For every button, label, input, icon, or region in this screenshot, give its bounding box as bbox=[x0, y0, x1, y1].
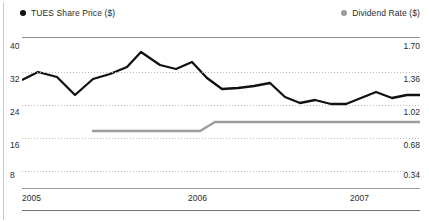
y-axis-label-24: 24 bbox=[10, 107, 19, 117]
legend-item-share-price: TUES Share Price ($) bbox=[20, 8, 115, 18]
legend-label-dividend-rate: Dividend Rate ($) bbox=[352, 8, 420, 18]
series-line-dividend-rate bbox=[92, 122, 420, 131]
y-axis-label-40: 40 bbox=[10, 41, 19, 51]
chart-container: TUES Share Price ($) Dividend Rate ($) 4… bbox=[0, 0, 429, 222]
y-axis-label-16: 16 bbox=[10, 140, 19, 150]
x-axis-top-rule bbox=[22, 188, 420, 189]
legend-item-dividend-rate: Dividend Rate ($) bbox=[341, 8, 420, 18]
series-line-share-price bbox=[22, 52, 420, 104]
y2-axis-label-068: 0.68 bbox=[403, 140, 420, 150]
gridline-24 bbox=[22, 105, 420, 106]
x-axis-label-2007: 2007 bbox=[350, 193, 369, 203]
legend-label-share-price: TUES Share Price ($) bbox=[31, 8, 115, 18]
legend-dot-icon bbox=[341, 10, 347, 16]
x-axis-bottom-rule bbox=[22, 210, 420, 211]
gridline-8 bbox=[22, 171, 420, 172]
gridline-16 bbox=[22, 138, 420, 139]
y2-axis-label-034: 0.34 bbox=[403, 170, 420, 180]
y2-axis-label-102: 1.02 bbox=[403, 107, 420, 117]
y2-axis-label-170: 1.70 bbox=[403, 41, 420, 51]
y-axis-label-8: 8 bbox=[10, 170, 15, 180]
x-axis-label-2006: 2006 bbox=[188, 193, 207, 203]
y2-axis-label-136: 1.36 bbox=[403, 74, 420, 84]
gridline-32 bbox=[22, 72, 420, 73]
legend-dot-icon bbox=[20, 10, 26, 16]
page-left-rule bbox=[3, 2, 4, 220]
plot-area bbox=[22, 38, 420, 172]
x-axis-label-2005: 2005 bbox=[22, 193, 41, 203]
y-axis-label-32: 32 bbox=[10, 74, 19, 84]
chart-legend: TUES Share Price ($) Dividend Rate ($) bbox=[0, 8, 429, 24]
